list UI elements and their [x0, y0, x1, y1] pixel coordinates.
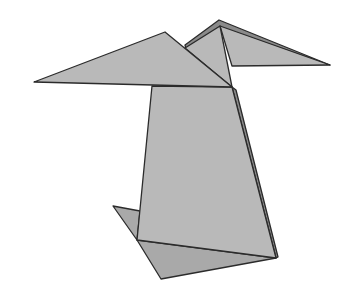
origami-figure — [0, 0, 352, 291]
right-wing-shape — [220, 26, 330, 66]
left-foot-flap-shape — [113, 206, 140, 240]
